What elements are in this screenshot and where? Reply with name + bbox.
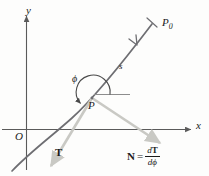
normal-vector-N bbox=[92, 98, 160, 143]
numerator-T: T bbox=[152, 145, 158, 155]
phi-angle-label: ϕ bbox=[72, 74, 77, 84]
p0-tick-icon bbox=[147, 18, 157, 27]
figure-canvas: y x O P0 P s ϕ T N = dT dϕ bbox=[0, 0, 209, 176]
point-p0-label: P0 bbox=[162, 17, 173, 31]
equation-lhs-N: N bbox=[127, 151, 135, 162]
curve-direction-arrow-icon bbox=[129, 35, 137, 45]
equation-equals-sign: = bbox=[137, 151, 143, 162]
point-p0-subscript: 0 bbox=[169, 22, 173, 31]
x-axis-label: x bbox=[196, 120, 201, 131]
point-p0-letter: P bbox=[162, 16, 169, 28]
equation-numerator: dT bbox=[145, 146, 160, 157]
equation-fraction: dT dϕ bbox=[145, 146, 160, 167]
tangent-vector-label: T bbox=[55, 147, 62, 158]
arc-length-label: s bbox=[119, 62, 123, 71]
denominator-phi: ϕ bbox=[152, 157, 157, 167]
diagram-svg bbox=[0, 0, 209, 176]
origin-label: O bbox=[15, 131, 23, 142]
point-p-label: P bbox=[88, 100, 95, 111]
y-axis-label: y bbox=[26, 5, 31, 16]
normal-vector-equation: N = dT dϕ bbox=[127, 146, 160, 167]
equation-denominator: dϕ bbox=[146, 157, 159, 167]
